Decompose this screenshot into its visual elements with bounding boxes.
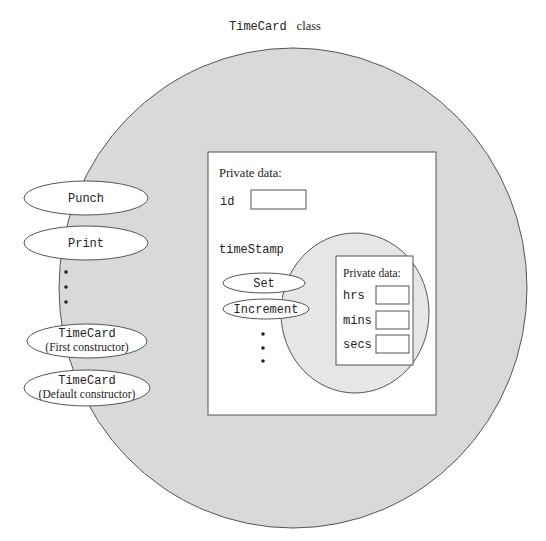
private-data-heading: Private data:	[219, 166, 282, 180]
timestamp-private-heading: Private data:	[343, 267, 401, 279]
ellipsis-dot	[261, 346, 265, 350]
operation-first-constructor-sub: (First constructor)	[45, 341, 129, 354]
ellipsis-dot	[64, 300, 68, 304]
operation-punch-label: Punch	[68, 192, 104, 206]
operation-default-constructor-sub: (Default constructor)	[39, 388, 136, 401]
field-box-id	[251, 190, 306, 209]
ellipsis-dot	[64, 285, 68, 289]
timecard-class-diagram: TimeCard class Private data: id timeStam…	[0, 0, 546, 541]
operation-default-constructor-label: TimeCard	[58, 374, 116, 388]
field-label-mins: mins	[343, 314, 372, 328]
field-label-timestamp: timeStamp	[219, 243, 284, 257]
field-label-id: id	[220, 195, 234, 209]
field-box-hrs	[376, 286, 409, 304]
operation-print-label: Print	[68, 237, 104, 251]
class-name: TimeCard	[229, 20, 287, 34]
ellipsis-dot	[261, 359, 265, 363]
field-box-secs	[376, 335, 409, 353]
operation-first-constructor-label: TimeCard	[58, 327, 116, 341]
ellipsis-dot	[64, 270, 68, 274]
ellipsis-dot	[261, 332, 265, 336]
field-box-mins	[376, 311, 409, 329]
class-suffix: class	[297, 19, 321, 33]
field-label-secs: secs	[343, 338, 372, 352]
operation-increment-label: Increment	[234, 303, 299, 317]
operation-set-label: Set	[253, 277, 275, 291]
field-label-hrs: hrs	[343, 289, 365, 303]
diagram-title: TimeCard class	[229, 16, 321, 34]
